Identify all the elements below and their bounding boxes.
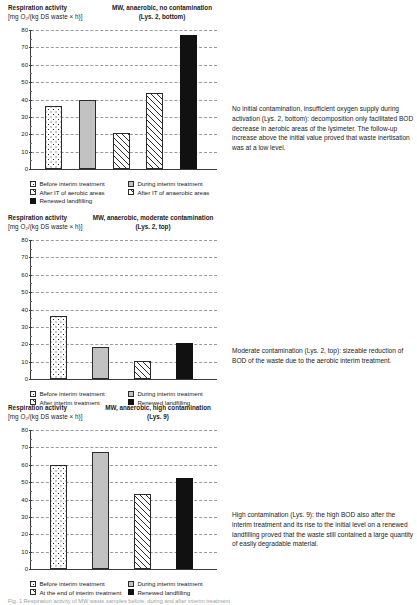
y-tick-label-10: 10 (21, 149, 28, 155)
bar-series (31, 240, 217, 379)
chart-title: MW, anaerobic, moderate contamination (L… (78, 214, 228, 232)
legend-swatch-black-icon (30, 198, 36, 204)
y-tick-label-0: 0 (25, 566, 28, 572)
legend-swatch-dots-icon (30, 581, 36, 587)
y-tick-label-50: 50 (21, 79, 28, 85)
legend-swatch-black-icon (128, 589, 134, 595)
chart-title-line2: (Lys. 2, bottom) (139, 13, 186, 20)
y-tick-label-10: 10 (21, 359, 28, 365)
legend-swatch-hatch-icon (30, 589, 36, 595)
y-tick-mark-0 (29, 169, 32, 170)
legend-item: Before interim treatment (30, 390, 128, 397)
chart-title-line2: (Lys. 2, top) (135, 223, 170, 230)
bar-series (31, 30, 217, 169)
bar-2 (92, 452, 109, 569)
legend-row: Renewed landfilling (30, 197, 226, 204)
bar-2 (79, 100, 96, 170)
chart-titles: Respiration activity [mg O₂/(kg DS waste… (0, 214, 228, 236)
y-tick-label-50: 50 (21, 479, 28, 485)
y-tick-label-30: 30 (21, 324, 28, 330)
legend-swatch-gray-icon (128, 391, 134, 397)
legend-row: After IT of aerobic areasAfter IT of ana… (30, 189, 226, 196)
chart-legend: Before interim treatmentDuring interim t… (30, 580, 226, 597)
y-tick-label-40: 40 (21, 97, 28, 103)
bar-3 (134, 361, 151, 379)
legend-item-empty (128, 197, 226, 204)
y-tick-mark-0 (29, 569, 32, 570)
y-tick-label-60: 60 (21, 62, 28, 68)
legend-swatch-gray-icon (128, 181, 134, 187)
bar-4 (176, 343, 193, 379)
y-tick-label-70: 70 (21, 44, 28, 50)
chart-note: High contamination (Lys. 9): the high BO… (232, 510, 416, 549)
legend-label: Before interim treatment (39, 180, 104, 187)
y-tick-label-20: 20 (21, 131, 28, 137)
legend-label: Renewed landfilling (39, 197, 92, 204)
y-tick-label-50: 50 (21, 289, 28, 295)
y-axis-title: Respiration activity (8, 214, 67, 221)
legend-row: Before interim treatmentDuring interim t… (30, 390, 226, 397)
bar-1 (45, 106, 62, 169)
y-tick-label-20: 20 (21, 341, 28, 347)
chart-area: Respiration activity [mg O₂/(kg DS waste… (0, 404, 228, 426)
legend-item: During interim treatment (128, 180, 226, 187)
legend-label: At the end of interim treatment (39, 589, 121, 596)
y-tick-label-30: 30 (21, 114, 28, 120)
legend-label: Before interim treatment (39, 580, 104, 587)
legend-label: Before interim treatment (39, 390, 104, 397)
y-tick-mark-0 (29, 379, 32, 380)
legend-item: After IT of anaerobic areas (128, 189, 226, 196)
chart-title: MW, anaerobic, no contamination (Lys. 2,… (96, 4, 228, 22)
y-tick-label-80: 80 (21, 27, 28, 33)
legend-row: Before interim treatmentDuring interim t… (30, 180, 226, 187)
chart-titles: Respiration activity [mg O₂/(kg DS waste… (0, 4, 228, 26)
y-tick-label-10: 10 (21, 549, 28, 555)
y-tick-label-20: 20 (21, 531, 28, 537)
y-tick-label-60: 60 (21, 272, 28, 278)
chart-title-line1: MW, anaerobic, no contamination (112, 4, 212, 11)
y-axis-units: [mg O₂/(kg DS waste × h)] (8, 223, 83, 230)
axes: 01020304050607080 (30, 30, 217, 170)
legend-item: At the end of interim treatment (30, 589, 128, 596)
legend-swatch-hatch-icon (30, 189, 36, 195)
axes: 01020304050607080 (30, 430, 217, 570)
legend-item: During interim treatment (128, 580, 226, 587)
y-tick-label-80: 80 (21, 427, 28, 433)
legend-item: Renewed landfilling (30, 197, 128, 204)
y-tick-label-30: 30 (21, 514, 28, 520)
y-axis-title: Respiration activity (8, 404, 67, 411)
chart-legend: Before interim treatmentDuring interim t… (30, 180, 226, 206)
legend-item: Before interim treatment (30, 580, 128, 587)
bar-3 (113, 133, 130, 169)
y-axis-title: Respiration activity (8, 4, 67, 11)
legend-row: Before interim treatmentDuring interim t… (30, 580, 226, 587)
legend-item: During interim treatment (128, 390, 226, 397)
y-tick-label-0: 0 (25, 376, 28, 382)
chart-area: Respiration activity [mg O₂/(kg DS waste… (0, 4, 228, 26)
y-tick-label-60: 60 (21, 462, 28, 468)
chart-title-line1: MW, anaerobic, moderate contamination (93, 214, 214, 221)
chart-title: MW, anaerobic, high contamination (Lys. … (88, 404, 228, 422)
figure-page: Respiration activity [mg O₂/(kg DS waste… (0, 0, 417, 605)
bar-2 (92, 347, 109, 379)
plot-area: 01020304050607080 (0, 426, 228, 576)
legend-label: During interim treatment (137, 580, 202, 587)
bar-1 (50, 465, 67, 569)
y-tick-label-80: 80 (21, 237, 28, 243)
axes: 01020304050607080 (30, 240, 217, 380)
plot-area: 01020304050607080 (0, 236, 228, 386)
y-tick-label-40: 40 (21, 497, 28, 503)
bar-4 (176, 478, 193, 569)
bar-5 (180, 35, 197, 169)
chart-title-line2: (Lys. 9) (147, 413, 169, 420)
bar-1 (50, 316, 67, 379)
y-tick-label-70: 70 (21, 444, 28, 450)
legend-swatch-gray-icon (128, 581, 134, 587)
legend-item: Renewed landfilling (128, 589, 226, 596)
figure-caption: Fig. 1 Respiration activity of MW waste … (8, 598, 408, 604)
chart-area: Respiration activity [mg O₂/(kg DS waste… (0, 214, 228, 236)
legend-item: After IT of aerobic areas (30, 189, 128, 196)
legend-label: During interim treatment (137, 390, 202, 397)
legend-item: Before interim treatment (30, 180, 128, 187)
legend-swatch-hatch-icon (128, 189, 134, 195)
